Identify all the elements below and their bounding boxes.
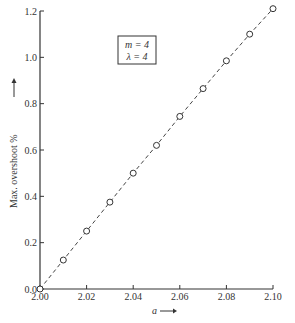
data-point-marker [154,142,160,148]
parameter-m: m = 4 [125,39,149,50]
x-tick-label: 2.06 [171,291,189,302]
parameter-lambda: λ = 4 [125,51,147,62]
y-axis-title: Max. overshoot % [8,134,19,208]
y-axis-label: Max. overshoot % [8,134,19,208]
x-tick-label: 2.02 [78,291,96,302]
data-point-marker [270,6,276,12]
data-point-marker [223,58,229,64]
data-point-marker [247,31,253,37]
data-point-marker [37,286,43,292]
y-tick-label: 0.8 [25,98,38,109]
y-tick-label: 1.0 [25,52,38,63]
parameter-box: m = 4 λ = 4 [118,36,156,64]
data-point-marker [60,257,66,263]
data-point-marker [107,199,113,205]
data-point-marker [130,170,136,176]
x-tick-label: 2.10 [264,291,282,302]
arrow-up-icon [12,78,17,97]
x-tick-label: 2.00 [31,291,49,302]
y-tick-label: 0.6 [25,145,38,156]
x-axis-title: a [152,305,157,316]
y-tick-label: 1.2 [25,6,38,17]
y-tick-label: 0.2 [25,237,38,248]
data-point-marker [84,228,90,234]
x-tick-label: 2.08 [218,291,236,302]
data-point-marker [177,113,183,119]
chart: 0.00.20.40.60.81.01.22.002.022.042.062.0… [0,0,295,323]
y-tick-label: 0.4 [25,191,38,202]
data-point-marker [200,86,206,92]
x-axis-label: a [152,305,177,316]
x-tick-label: 2.04 [124,291,142,302]
